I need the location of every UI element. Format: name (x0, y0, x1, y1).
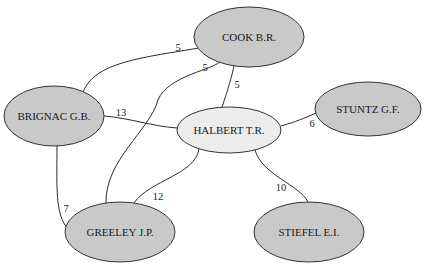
edge-halbert-greeley (134, 149, 199, 203)
node-stuntz: STUNTZ G.F. (315, 82, 421, 136)
network-graph: COOK B.R.BRIGNAC G.B.HALBERT T.R.STUNTZ … (0, 0, 432, 268)
edge-halbert-cook (222, 66, 234, 107)
node-stiefel: STIEFEL E.I. (254, 202, 364, 262)
edge-weight-label: 13 (116, 107, 127, 118)
node-greeley: GREELEY J.P. (65, 202, 175, 262)
edge-weight-label: 12 (153, 191, 164, 202)
node-label: STUNTZ G.F. (336, 103, 400, 115)
edge-weight-label: 10 (276, 182, 287, 193)
edge-weight-label: 5 (202, 62, 207, 73)
node-cook: COOK B.R. (194, 7, 304, 67)
edge-halbert-stiefel (255, 150, 308, 202)
node-label: GREELEY J.P. (86, 226, 153, 238)
node-brignac: BRIGNAC G.B. (4, 86, 104, 146)
edge-weight-label: 5 (234, 79, 239, 90)
network-diagram: COOK B.R.BRIGNAC G.B.HALBERT T.R.STUNTZ … (0, 0, 432, 268)
node-label: HALBERT T.R. (193, 124, 264, 136)
node-label: BRIGNAC G.B. (17, 110, 90, 122)
nodes-layer: COOK B.R.BRIGNAC G.B.HALBERT T.R.STUNTZ … (4, 7, 421, 262)
edge-brignac-halbert (104, 116, 177, 128)
node-label: STIEFEL E.I. (279, 226, 340, 238)
node-halbert: HALBERT T.R. (177, 107, 281, 153)
node-label: COOK B.R. (222, 31, 276, 43)
edge-weight-label: 7 (63, 203, 68, 214)
edge-weight-label: 6 (309, 118, 314, 129)
edge-brignac-cook (83, 47, 205, 92)
edge-weight-label: 5 (175, 42, 180, 53)
